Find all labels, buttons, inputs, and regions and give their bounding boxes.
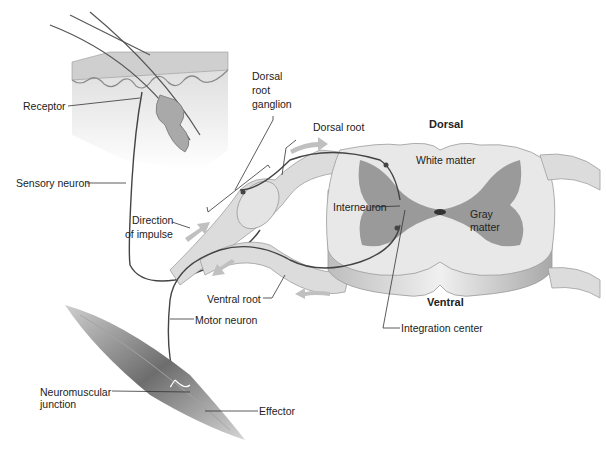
- label-white-matter: White matter: [416, 154, 476, 166]
- label-neuromuscular-2: junction: [40, 398, 76, 410]
- label-direction-1: Direction: [132, 214, 173, 226]
- label-direction-2: of impulse: [125, 228, 173, 240]
- label-neuromuscular-1: Neuromuscular: [40, 386, 111, 398]
- label-receptor: Receptor: [23, 100, 66, 112]
- label-dorsal-root-ganglion-1: Dorsal: [252, 70, 282, 82]
- label-gray-matter-2: matter: [470, 221, 500, 233]
- label-ventral: Ventral: [427, 296, 464, 308]
- label-dorsal-root: Dorsal root: [313, 121, 364, 133]
- label-interneuron: Interneuron: [333, 201, 387, 213]
- label-ventral-root: Ventral root: [207, 293, 261, 305]
- label-sensory-neuron: Sensory neuron: [16, 177, 90, 189]
- label-dorsal-root-ganglion-2: root: [252, 84, 270, 96]
- label-dorsal: Dorsal: [429, 118, 463, 130]
- label-effector: Effector: [259, 405, 295, 417]
- skin-block: [50, 12, 228, 170]
- label-dorsal-root-ganglion-3: ganglion: [252, 98, 292, 110]
- label-motor-neuron: Motor neuron: [195, 314, 257, 326]
- reflex-arc-diagram: Receptor Dorsal root ganglion Dorsal roo…: [0, 0, 606, 461]
- spinal-cord: [327, 143, 601, 298]
- label-gray-matter-1: Gray: [470, 208, 493, 220]
- label-integration-center: Integration center: [401, 322, 483, 334]
